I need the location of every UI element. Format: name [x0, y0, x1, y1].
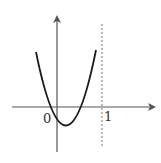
graph-canvas: 0 1	[0, 0, 161, 163]
origin-label: 0	[43, 111, 51, 126]
x-tick-label-1: 1	[104, 109, 112, 124]
